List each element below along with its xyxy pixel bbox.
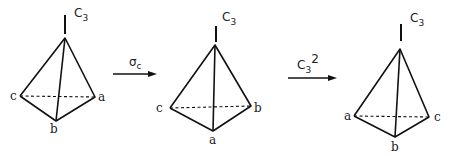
vertex-label-left: a: [344, 109, 351, 123]
operation-arrow-sigma-c: σc: [113, 55, 157, 77]
vertex-label-left: c: [10, 89, 17, 103]
front-edge: [213, 45, 215, 131]
hidden-edge: [20, 96, 95, 97]
pyramid-edges: [170, 45, 251, 131]
axis-label: C3: [410, 11, 424, 28]
vertex-label-front: b: [50, 122, 58, 136]
vertex-label-right: c: [434, 110, 441, 124]
pyramid-initial: C3 c a b: [10, 6, 105, 136]
vertex-label-right: b: [254, 101, 262, 115]
vertex-label-right: a: [98, 90, 105, 104]
operation-label: C32: [297, 52, 319, 75]
hidden-edge: [170, 106, 251, 108]
operation-arrow-c3-squared: C32: [288, 52, 337, 81]
pyramid-edges: [354, 49, 429, 137]
symmetry-diagram: C3 c a b σc C3 c b a C32 C3 a c b: [0, 0, 450, 156]
vertex-label-front: a: [209, 133, 216, 147]
operation-label: σc: [129, 55, 142, 71]
pyramid-after-sigma-c: C3 c b a: [156, 10, 262, 147]
front-edge: [395, 49, 400, 137]
pyramid-after-c3-squared: C3 a c b: [344, 11, 441, 154]
axis-label: C3: [74, 6, 88, 23]
vertex-label-front: b: [391, 140, 399, 154]
hidden-edge: [354, 116, 429, 117]
axis-label: C3: [222, 10, 236, 27]
vertex-label-left: c: [156, 101, 163, 115]
front-edge: [56, 38, 65, 121]
